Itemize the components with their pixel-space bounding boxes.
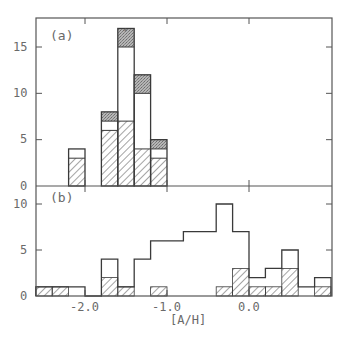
y-tick-label-a-15: 15 bbox=[13, 40, 27, 54]
x-tick-label-neg1: -1.0 bbox=[152, 300, 181, 314]
y-tick-label-b-0: 0 bbox=[20, 289, 27, 303]
panel-b-label: (b) bbox=[50, 190, 73, 205]
bar-hatched-segment bbox=[265, 287, 281, 296]
bar-hatched-segment bbox=[249, 287, 265, 296]
bar-hatched-segment bbox=[233, 268, 249, 296]
star-marker-icon: * bbox=[123, 28, 128, 37]
bar-hatched-segment bbox=[216, 287, 232, 296]
bar-hatched-segment bbox=[151, 287, 167, 296]
bar-hatched-segment bbox=[134, 149, 150, 186]
bar-hatched-segment bbox=[118, 287, 134, 296]
bar-hatched-segment bbox=[151, 158, 167, 186]
bar-hatched-segment bbox=[52, 287, 68, 296]
bar-shaded-segment bbox=[134, 75, 150, 94]
bar-hatched-segment bbox=[101, 278, 117, 296]
bar-hatched-segment bbox=[101, 130, 117, 186]
bar-hatched-segment bbox=[118, 121, 134, 186]
chart-canvas: * (a) (b) [A/H] -2.0 -1.0 0.0 0 5 10 15 … bbox=[0, 0, 351, 339]
panel-b-histogram bbox=[36, 204, 331, 296]
y-tick-label-b-5: 5 bbox=[20, 243, 27, 257]
bar-hatched-segment bbox=[282, 268, 298, 296]
chart-axes bbox=[36, 18, 332, 296]
y-tick-label-a-5: 5 bbox=[20, 132, 27, 146]
panel-a-label: (a) bbox=[50, 28, 73, 43]
y-tick-label-a-0: 0 bbox=[20, 179, 27, 193]
y-tick-label-b-10: 10 bbox=[13, 197, 27, 211]
bar-hatched-segment bbox=[69, 158, 85, 186]
bar-hatched-segment bbox=[36, 287, 52, 296]
x-axis-title: [A/H] bbox=[170, 313, 206, 327]
bar-shaded-segment bbox=[151, 140, 167, 149]
bar-hatched-segment bbox=[315, 287, 331, 296]
x-tick-label-neg2: -2.0 bbox=[70, 300, 99, 314]
x-tick-label-0: 0.0 bbox=[238, 300, 260, 314]
y-tick-label-a-10: 10 bbox=[13, 86, 27, 100]
bar-shaded-segment bbox=[101, 112, 117, 121]
histogram-figure: * (a) (b) [A/H] -2.0 -1.0 0.0 0 5 10 15 … bbox=[0, 0, 351, 339]
plot-frame bbox=[36, 18, 332, 296]
panel-a-histogram: * bbox=[69, 28, 167, 186]
